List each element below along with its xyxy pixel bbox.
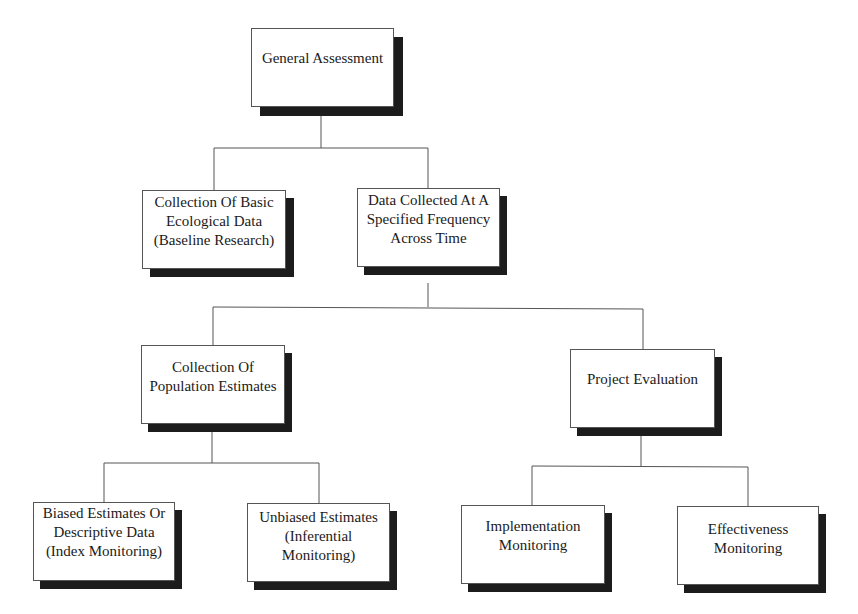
node-label: Population Estimates bbox=[149, 377, 276, 396]
node-label: Implementation bbox=[486, 517, 581, 536]
node-label: Descriptive Data bbox=[53, 523, 154, 542]
node-box: Collection Of Basic Ecological Data (Bas… bbox=[142, 190, 286, 269]
node-box: Data Collected At A Specified Frequency … bbox=[357, 188, 500, 267]
node-label: Monitoring) bbox=[282, 546, 355, 565]
node-box: Unbiased Estimates (Inferential Monitori… bbox=[247, 503, 390, 582]
node-label: (Inferential bbox=[285, 527, 352, 546]
node-label: Project Evaluation bbox=[587, 370, 698, 389]
node-label: Collection Of bbox=[172, 358, 254, 377]
connector-line bbox=[213, 307, 643, 309]
node-box: Effectiveness Monitoring bbox=[677, 506, 819, 585]
hierarchy-diagram: General Assessment Collection Of Basic E… bbox=[0, 0, 858, 614]
node-label: Unbiased Estimates bbox=[259, 508, 378, 527]
node-label: General Assessment bbox=[262, 49, 383, 68]
node-label: Across Time bbox=[390, 229, 466, 248]
node-box: Biased Estimates Or Descriptive Data (In… bbox=[33, 502, 175, 581]
connector-line bbox=[532, 466, 748, 467]
node-label: Monitoring bbox=[714, 539, 782, 558]
node-label: Specified Frequency bbox=[367, 210, 491, 229]
node-box: General Assessment bbox=[251, 28, 394, 107]
node-label: (Index Monitoring) bbox=[46, 542, 162, 561]
node-box: Project Evaluation bbox=[570, 349, 715, 428]
node-label: Effectiveness bbox=[708, 520, 789, 539]
node-box: Implementation Monitoring bbox=[461, 505, 605, 584]
node-label: Collection Of Basic bbox=[154, 193, 273, 212]
node-label: Data Collected At A bbox=[368, 191, 489, 210]
node-label: Monitoring bbox=[499, 536, 567, 555]
node-label: Biased Estimates Or bbox=[43, 504, 165, 523]
node-label: Ecological Data bbox=[166, 212, 262, 231]
node-label: (Baseline Research) bbox=[154, 231, 274, 250]
node-box: Collection Of Population Estimates bbox=[141, 345, 285, 424]
